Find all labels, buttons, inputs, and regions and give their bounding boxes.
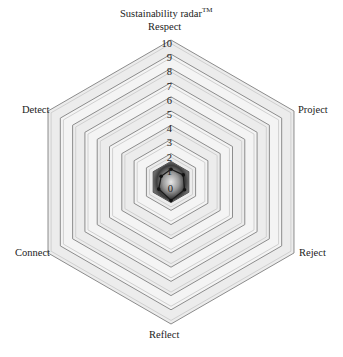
tick-label-4: 4	[167, 123, 172, 134]
data-point-connect	[157, 187, 161, 191]
data-point-reject	[183, 188, 187, 192]
axis-label-connect: Connect	[15, 247, 50, 258]
tick-label-0: 0	[168, 183, 173, 194]
axis-label-reject: Reject	[299, 247, 326, 258]
tick-label-6: 6	[167, 94, 172, 105]
tick-label-7: 7	[167, 80, 172, 91]
tick-label-2: 2	[167, 151, 172, 162]
data-point-detect	[159, 175, 163, 179]
tick-label-9: 9	[167, 52, 172, 63]
chart-title: Sustainability radarTM	[120, 6, 212, 19]
data-point-reflect	[169, 199, 173, 203]
axis-label-respect: Respect	[148, 21, 181, 32]
axis-label-project: Project	[298, 104, 328, 115]
data-point-project	[181, 173, 185, 177]
tick-label-8: 8	[167, 66, 172, 77]
sustainability-radar-chart: Sustainability radarTM Respect Project R…	[0, 0, 343, 357]
axis-label-detect: Detect	[22, 104, 49, 115]
tick-label-10: 10	[162, 38, 173, 49]
tick-label-1: 1	[167, 165, 172, 176]
trademark-mark: TM	[202, 6, 213, 14]
chart-title-text: Sustainability radar	[120, 8, 202, 19]
tick-label-3: 3	[167, 137, 172, 148]
axis-label-reflect: Reflect	[149, 329, 179, 340]
tick-label-5: 5	[167, 109, 172, 120]
